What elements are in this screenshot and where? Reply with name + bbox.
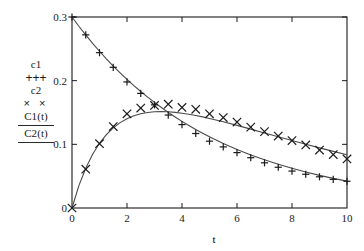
legend-label-c1: c1 [31, 59, 42, 70]
legend-label-C2t: C2(t) [24, 128, 48, 139]
x-tick-label: 6 [234, 212, 240, 224]
legend-entry-c1-marker: +++ [12, 71, 60, 84]
chart-legend: c1 +++ c2 × × C1(t) C2(t) [12, 58, 60, 144]
x-tick-label: 10 [342, 212, 354, 224]
x-tick-labels: 0246810 [69, 212, 353, 224]
chart-figure: c1 +++ c2 × × C1(t) C2(t) 0246810 00.10.… [0, 0, 364, 251]
legend-label-C1t: C1(t) [24, 111, 48, 122]
legend-label-c2: c2 [31, 85, 42, 96]
curve-C1t [72, 17, 347, 181]
legend-entry-C2t-label: C2(t) [12, 127, 60, 140]
legend-entry-C1t-label: C1(t) [12, 110, 60, 123]
legend-line-swatch-C1t [18, 125, 54, 126]
marker-set-c2 [68, 100, 351, 212]
y-tick-label: 0 [62, 202, 68, 214]
legend-line-swatch-C2t [18, 142, 54, 143]
data-markers [68, 13, 351, 212]
fitted-curves [72, 17, 347, 208]
x-tick-label: 8 [289, 212, 295, 224]
marker-set-c1 [68, 13, 350, 184]
cross-marker-icon: × × [24, 98, 49, 109]
plot-frame [72, 17, 347, 208]
legend-entry-c1-label: c1 [12, 58, 60, 71]
y-tick-label: 0.3 [53, 11, 67, 23]
x-tick-label: 2 [124, 212, 130, 224]
x-tick-label: 0 [69, 212, 75, 224]
x-tick-label: 4 [179, 212, 185, 224]
legend-entry-c2-label: c2 [12, 84, 60, 97]
x-axis-label: t [212, 233, 215, 245]
axis-ticks [72, 17, 347, 208]
legend-entry-c2-marker: × × [12, 97, 60, 110]
plus-marker-icon: +++ [25, 72, 46, 84]
